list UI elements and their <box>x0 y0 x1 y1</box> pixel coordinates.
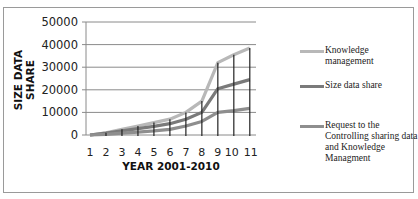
x-tick-label: 1 <box>87 146 94 159</box>
legend-item-size-data-share: Size data share <box>300 80 382 91</box>
x-tick-label: 8 <box>198 146 205 159</box>
legend-label: Request to the Controlling sharing data … <box>325 120 418 164</box>
x-tick-label: 6 <box>166 146 173 159</box>
legend-swatch <box>300 50 324 53</box>
x-axis-label: YEAR 2001-2010 <box>86 160 256 172</box>
y-tick-label: 30000 <box>41 60 78 74</box>
x-tick-label: 4 <box>134 146 141 159</box>
x-tick-label: 5 <box>150 146 157 159</box>
x-tick-label: 11 <box>244 146 258 159</box>
x-tick-label: 10 <box>225 146 239 159</box>
x-tick-label: 3 <box>118 146 125 159</box>
y-tick-label: 20000 <box>41 83 78 97</box>
legend-item-knowledge-management: Knowledge management <box>300 45 418 67</box>
legend-label: Knowledge management <box>325 45 418 67</box>
legend-item-request-controlling: Request to the Controlling sharing data … <box>300 120 418 164</box>
y-tick-label: 40000 <box>41 38 78 52</box>
y-tick-label: 10000 <box>41 105 78 119</box>
x-tick-label: 9 <box>214 146 221 159</box>
y-tick-label: 0 <box>71 128 78 142</box>
y-tick-label: 50000 <box>41 15 78 29</box>
legend-swatch <box>300 85 324 88</box>
x-tick-label: 2 <box>102 146 109 159</box>
x-tick-label: 7 <box>182 146 189 159</box>
legend-label: Size data share <box>325 80 382 91</box>
y-axis-label: SIZE DATA SHARE <box>12 30 36 130</box>
legend-swatch <box>300 125 324 128</box>
